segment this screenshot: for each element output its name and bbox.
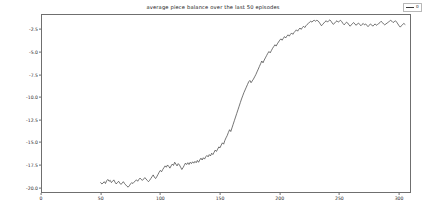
y-tick-label: -17.5 [26,162,38,167]
chart-screenshot: average piece balance over the last 50 e… [0,0,426,210]
data-series-line [101,20,405,187]
x-tick-label: 100 [156,196,165,201]
legend-label: 0 [416,5,419,9]
x-tick-mark [160,193,161,195]
x-tick-mark [220,193,221,195]
x-tick-mark [279,193,280,195]
y-tick-mark [39,52,41,53]
y-tick-mark [39,97,41,98]
y-tick-label: -12.5 [26,117,38,122]
legend-line-swatch [406,7,414,8]
y-tick-mark [39,187,41,188]
x-tick-mark [399,193,400,195]
y-tick-label: -15.0 [26,140,38,145]
plot-canvas [41,14,411,193]
y-tick-mark [39,142,41,143]
y-tick-mark [39,29,41,30]
y-tick-label: -10.0 [26,95,38,100]
x-tick-label: 200 [275,196,284,201]
y-tick-mark [39,165,41,166]
x-tick-mark [339,193,340,195]
y-axis-tick-labels: -2.5-5.0-7.5-10.0-12.5-15.0-17.5-20.0 [0,0,38,210]
x-tick-label: 150 [216,196,225,201]
x-tick-label: 300 [395,196,404,201]
x-tick-label: 250 [335,196,344,201]
y-tick-label: -7.5 [29,72,38,77]
y-tick-label: -5.0 [29,49,38,54]
x-tick-label: 50 [98,196,104,201]
x-tick-mark [100,193,101,195]
y-tick-label: -20.0 [26,185,38,190]
legend: 0 [403,3,422,12]
x-tick-mark [41,193,42,195]
y-tick-mark [39,119,41,120]
chart-title: average piece balance over the last 50 e… [0,4,426,10]
y-tick-label: -2.5 [29,27,38,32]
x-tick-label: 0 [40,196,43,201]
y-tick-mark [39,74,41,75]
